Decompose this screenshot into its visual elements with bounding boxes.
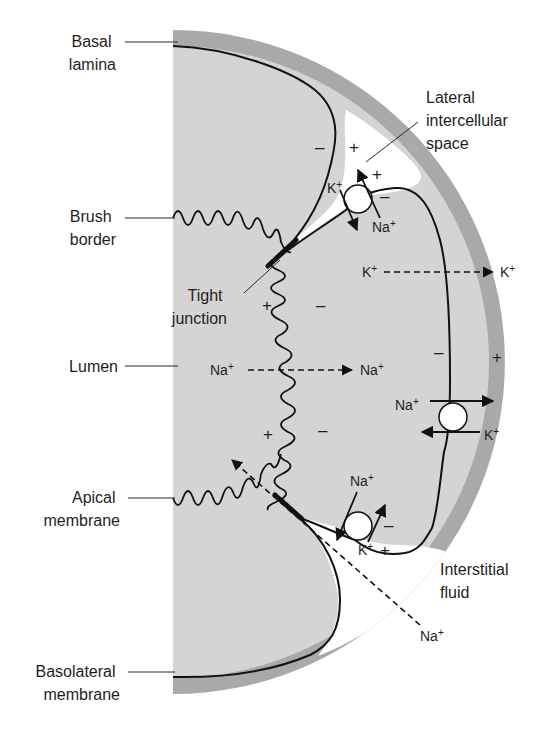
ion-na-paracellular: Na+ <box>420 627 444 645</box>
charge-minus-cell-basolateral: – <box>434 343 444 362</box>
epithelial-transport-diagram: Basal lamina Brush border Tight junction… <box>0 0 558 738</box>
label-apical-membrane: Apical membrane <box>44 489 121 529</box>
charge-minus-cell-upper: – <box>316 296 326 315</box>
charge-plus-interstitial: + <box>492 348 502 367</box>
charge-minus-upper-pump: – <box>380 187 390 206</box>
ion-k-interstitial: K+ <box>500 263 515 281</box>
basolateral-pump <box>439 403 467 431</box>
charge-minus-upper-cell: – <box>315 138 325 157</box>
charge-minus-cell-lower: – <box>318 421 328 440</box>
label-lateral-intercellular-space: Lateral intercellular space <box>426 89 512 152</box>
charge-plus-lumen-upper: + <box>262 296 272 315</box>
charge-plus-lumen-lower: + <box>263 425 273 444</box>
lower-lateral-pump <box>344 512 372 540</box>
charge-plus-upper-space-1: + <box>349 138 359 157</box>
ion-k-basolateral-pump: K+ <box>484 426 499 444</box>
charge-plus-upper-space-2: + <box>372 165 382 184</box>
charge-plus-lower-space: + <box>380 541 390 560</box>
label-brush-border: Brush border <box>70 208 117 248</box>
label-basal-lamina: Basal lamina <box>69 33 116 73</box>
label-basolateral-membrane: Basolateral membrane <box>36 663 121 703</box>
label-lumen: Lumen <box>69 358 118 375</box>
label-interstitial-fluid: Interstitial fluid <box>440 561 513 601</box>
charge-minus-lower-pump: – <box>384 516 394 535</box>
